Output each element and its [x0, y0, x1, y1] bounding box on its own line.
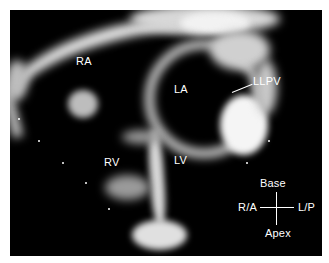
- interventricular-septum: [147, 130, 168, 226]
- speckle: [62, 162, 64, 164]
- speckle: [268, 140, 270, 142]
- orientation-left-posterior: L/P: [298, 202, 315, 213]
- orientation-apex: Apex: [265, 228, 291, 239]
- speckle: [85, 182, 87, 184]
- speckle: [18, 118, 20, 120]
- speckle: [246, 162, 248, 164]
- valve-fragment: [68, 90, 98, 118]
- label-left-atrium: LA: [174, 84, 188, 95]
- speckle: [108, 208, 110, 210]
- orientation-horizontal-line: [260, 207, 294, 208]
- orientation-right-anterior: R/A: [238, 202, 257, 213]
- speckle: [38, 140, 40, 142]
- label-left-lower-pulmonary-vein: LLPV: [253, 76, 281, 87]
- mitral-region: [122, 130, 162, 144]
- pulmonary-vein-wall: [255, 60, 277, 115]
- orientation-vertical-line: [276, 192, 277, 225]
- label-left-ventricle: LV: [174, 155, 187, 166]
- label-right-atrium: RA: [76, 56, 92, 67]
- ultrasound-image: RA LA LLPV RV LV Base R/A L/P Apex: [10, 10, 322, 256]
- rv-tissue: [105, 175, 150, 200]
- label-right-ventricle: RV: [104, 157, 119, 168]
- apex-tissue: [132, 220, 187, 250]
- orientation-base: Base: [260, 178, 286, 189]
